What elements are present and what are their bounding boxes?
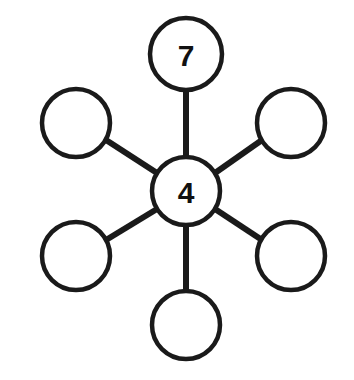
node-label-center: 4 — [178, 176, 195, 209]
center-node[interactable]: 4 — [152, 157, 220, 225]
outer-node-bottom[interactable] — [152, 291, 220, 359]
hub-and-spoke-diagram: 7 4 — [0, 0, 354, 380]
outer-node-lower-right[interactable] — [257, 222, 325, 290]
spoke-center-to-lower-left — [106, 209, 157, 240]
node-circle-upper-left[interactable] — [42, 89, 110, 157]
spoke-center-to-lower-right — [215, 209, 262, 240]
outer-node-upper-right[interactable] — [257, 89, 325, 157]
node-circle-upper-right[interactable] — [257, 89, 325, 157]
spoke-center-to-upper-right — [215, 140, 262, 173]
node-circle-lower-left[interactable] — [42, 222, 110, 290]
outer-node-lower-left[interactable] — [42, 222, 110, 290]
outer-node-upper-left[interactable] — [42, 89, 110, 157]
diagram-canvas: 7 4 — [0, 0, 354, 380]
node-circle-bottom[interactable] — [152, 291, 220, 359]
node-circle-lower-right[interactable] — [257, 222, 325, 290]
node-label-top: 7 — [178, 39, 195, 72]
outer-node-top[interactable]: 7 — [150, 18, 222, 90]
spoke-center-to-upper-left — [106, 140, 157, 173]
